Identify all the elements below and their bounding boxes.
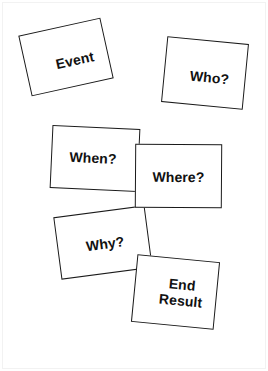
card-end-result[interactable]: End Result [131, 254, 220, 330]
card-who-label: Who? [185, 68, 234, 88]
card-who[interactable]: Who? [161, 36, 249, 110]
card-where[interactable]: Where? [135, 144, 222, 209]
diagram-canvas: Event Who? When? Where? Why? End Result [0, 0, 268, 371]
card-event[interactable]: Event [18, 18, 113, 97]
card-event-label: Event [51, 48, 100, 73]
card-when-label: When? [65, 149, 121, 167]
card-where-label: Where? [148, 170, 208, 186]
card-end-result-label: End Result [154, 276, 208, 312]
card-why-label: Why? [81, 233, 129, 255]
card-when[interactable]: When? [50, 125, 141, 192]
